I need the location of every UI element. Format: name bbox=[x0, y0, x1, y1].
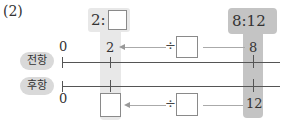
consequent-left-blank[interactable] bbox=[100, 93, 121, 117]
bottom-divide-sign: ÷ bbox=[165, 96, 175, 111]
left-ratio-prefix: 2: bbox=[91, 11, 106, 29]
bottom-arrow-line-right bbox=[203, 105, 243, 106]
antecedent-number-line bbox=[62, 62, 280, 63]
antecedent-right-value: 8 bbox=[249, 40, 257, 55]
top-divide-sign: ÷ bbox=[165, 38, 175, 53]
consequent-number-line bbox=[62, 86, 280, 87]
top-arrow-line-left bbox=[124, 47, 166, 48]
top-arrow-line-right bbox=[203, 47, 245, 48]
bottom-arrow-line-left bbox=[129, 105, 166, 106]
bottom-arrow-head-icon bbox=[124, 102, 130, 108]
right-ratio-header: 8:12 bbox=[228, 8, 277, 34]
left-ratio-blank[interactable] bbox=[108, 10, 127, 30]
consequent-left-tick bbox=[110, 80, 111, 92]
top-arrow-head-icon bbox=[119, 44, 125, 50]
consequent-label: 후항 bbox=[20, 77, 54, 95]
antecedent-right-tick bbox=[253, 55, 254, 68]
antecedent-label: 전항 bbox=[20, 52, 54, 70]
left-ratio-header: 2: bbox=[88, 8, 130, 32]
antecedent-left-value: 2 bbox=[106, 40, 114, 55]
antecedent-zero: 0 bbox=[59, 39, 67, 54]
right-ratio-text: 8:12 bbox=[232, 12, 266, 30]
antecedent-zero-tick bbox=[62, 57, 63, 68]
bottom-divisor-blank[interactable] bbox=[176, 93, 198, 116]
top-divisor-blank[interactable] bbox=[176, 36, 198, 58]
problem-number: (2) bbox=[3, 3, 23, 19]
antecedent-left-tick bbox=[110, 57, 111, 68]
consequent-right-value: 12 bbox=[246, 96, 263, 111]
consequent-right-tick bbox=[253, 79, 254, 92]
consequent-zero: 0 bbox=[59, 91, 67, 106]
